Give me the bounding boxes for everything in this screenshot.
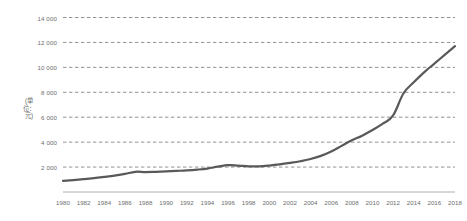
x-tick-label: 2010 bbox=[366, 199, 380, 206]
x-tick-label: 1996 bbox=[221, 199, 235, 206]
y-tick-label: 6 000 bbox=[0, 114, 57, 121]
x-tick-label: 1986 bbox=[118, 199, 132, 206]
x-tick-label: 1994 bbox=[201, 199, 215, 206]
y-tick-label: 8 000 bbox=[0, 89, 57, 96]
x-tick-label: 1988 bbox=[139, 199, 153, 206]
x-tick-label: 1992 bbox=[180, 199, 194, 206]
y-tick-label: 14 000 bbox=[0, 14, 57, 21]
y-tick-label: 4 000 bbox=[0, 139, 57, 146]
y-tick-label: 10 000 bbox=[0, 64, 57, 71]
x-tick-label: 2014 bbox=[407, 199, 421, 206]
x-tick-label: 1984 bbox=[97, 199, 111, 206]
data-series-line bbox=[63, 46, 455, 181]
x-tick-label: 2018 bbox=[448, 199, 462, 206]
y-tick-label: 12 000 bbox=[0, 39, 57, 46]
gridlines-group bbox=[63, 18, 455, 168]
x-tick-label: 2012 bbox=[386, 199, 400, 206]
x-tick-label: 2004 bbox=[304, 199, 318, 206]
x-tick-label: 1980 bbox=[56, 199, 70, 206]
y-tick-label: 2 000 bbox=[0, 164, 57, 171]
x-tick-label: 1990 bbox=[159, 199, 173, 206]
x-tick-label: 1982 bbox=[77, 199, 91, 206]
x-tick-label: 2008 bbox=[345, 199, 359, 206]
x-tick-label: 2000 bbox=[262, 199, 276, 206]
chart-plot-area bbox=[0, 0, 467, 221]
x-tick-label: 2002 bbox=[283, 199, 297, 206]
x-tick-label: 2016 bbox=[427, 199, 441, 206]
line-chart-figure: (单位：元) 2 0004 0006 0008 00010 00012 0001… bbox=[0, 0, 467, 221]
x-tick-label: 2006 bbox=[324, 199, 338, 206]
x-tick-label: 1998 bbox=[242, 199, 256, 206]
